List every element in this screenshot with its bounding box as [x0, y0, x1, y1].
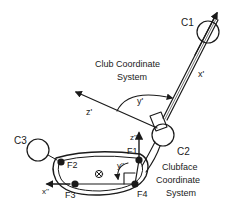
label-c1: C1	[181, 17, 194, 28]
marker-c2	[152, 124, 174, 146]
marker-c3	[27, 139, 49, 161]
club-shaft	[163, 18, 218, 120]
x-prime-axis	[195, 13, 217, 55]
label-f2: F2	[67, 160, 78, 170]
label-x-prime: x'	[198, 69, 205, 79]
y-prime-arc	[117, 95, 172, 111]
label-x-double-prime: x''	[42, 187, 50, 196]
label-club-coordinate-system-1: Club Coordinate	[95, 59, 160, 69]
into-page-icon	[95, 170, 102, 177]
label-f1: F1	[127, 146, 138, 156]
label-y-prime: y'	[137, 96, 144, 106]
label-f3: F3	[65, 190, 76, 200]
marker-f4	[131, 180, 138, 187]
label-clubface-coordinate-system-1: Clubface	[162, 162, 198, 172]
label-z-double-prime: z''	[130, 133, 138, 142]
label-club-coordinate-system-2: System	[117, 72, 147, 82]
label-f4: F4	[137, 189, 148, 199]
label-c3: C3	[14, 135, 27, 146]
club-coordinate-diagram: C1 x' Club Coordinate System z' y' C2 C3…	[0, 0, 232, 215]
marker-f2	[57, 158, 64, 165]
label-z-prime: z'	[86, 107, 93, 117]
marker-f3	[71, 180, 78, 187]
label-c2: C2	[177, 146, 190, 157]
label-clubface-coordinate-system-2: Coordinate	[156, 175, 200, 185]
label-clubface-coordinate-system-3: System	[166, 188, 196, 198]
label-y-double-prime: y''	[117, 161, 125, 170]
